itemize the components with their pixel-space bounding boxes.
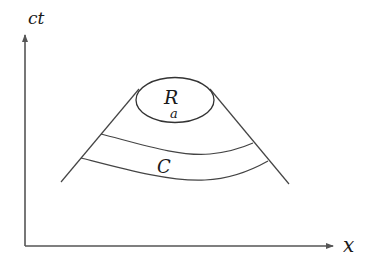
spacetime-diagram: ct x R a C bbox=[0, 0, 374, 267]
band-label: C bbox=[157, 156, 171, 177]
region-label: R bbox=[163, 86, 178, 108]
ct-axis-label: ct bbox=[28, 8, 45, 28]
upper-curve bbox=[101, 134, 253, 154]
lower-curve bbox=[81, 158, 268, 180]
x-axis-label: x bbox=[343, 233, 354, 257]
left-cone-line bbox=[61, 89, 139, 182]
region-label-subscript: a bbox=[170, 106, 178, 121]
